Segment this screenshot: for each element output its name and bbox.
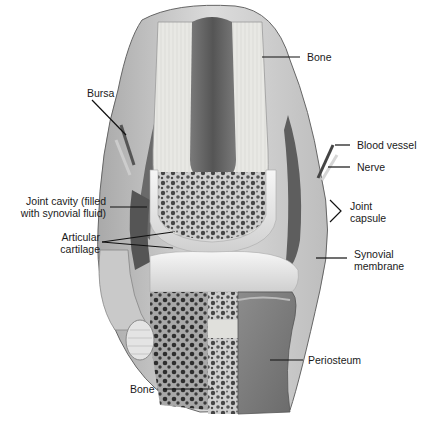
label-articular-cartilage-line2: cartilage	[30, 243, 100, 255]
label-bursa: Bursa	[87, 87, 114, 99]
label-nerve: Nerve	[357, 161, 385, 173]
label-periosteum: Periosteum	[308, 354, 361, 366]
label-joint-cavity: Joint cavity (filled with synovial fluid…	[4, 195, 106, 219]
label-articular-cartilage: Articular cartilage	[30, 231, 100, 255]
label-synovial-membrane: Synovial membrane	[354, 248, 404, 272]
joint-cavity	[130, 190, 150, 270]
label-bone-bottom: Bone	[130, 383, 155, 395]
label-joint-capsule: Joint capsule	[350, 200, 386, 224]
periosteum-surface	[238, 292, 296, 414]
label-bone-top: Bone	[307, 51, 332, 63]
articular-cartilage-lower	[150, 251, 298, 292]
label-joint-capsule-line2: capsule	[350, 212, 386, 224]
label-articular-cartilage-line1: Articular	[30, 231, 100, 243]
spongy-bone-upper	[158, 172, 268, 240]
lower-bone-spongy-right	[208, 292, 238, 414]
label-synovial-membrane-line2: membrane	[354, 260, 404, 272]
lower-bone-spongy-left	[150, 292, 208, 410]
label-synovial-membrane-line1: Synovial	[354, 248, 404, 260]
compact-strip	[208, 320, 238, 338]
label-joint-cavity-line1: Joint cavity (filled	[4, 195, 106, 207]
label-joint-capsule-line1: Joint	[350, 200, 386, 212]
marrow-cavity	[190, 17, 236, 186]
label-joint-cavity-line2: with synovial fluid)	[4, 207, 106, 219]
label-blood-vessel: Blood vessel	[357, 139, 417, 151]
